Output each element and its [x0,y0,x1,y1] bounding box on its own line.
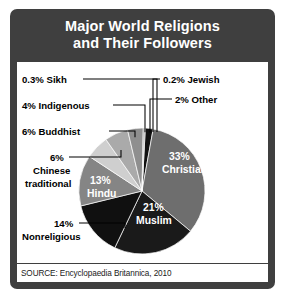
label-christian-pct: 33% [169,151,190,162]
label-nonreligious: Nonreligious [22,231,81,242]
label-chinese-pct: 6% [50,152,64,163]
pie-chart-svg: 0.3% Sikh 4% Indigenous 6% Buddhist 6% C… [17,62,268,263]
label-sikh: 0.3% Sikh [22,74,67,85]
source-strip: SOURCE: Encyclopaedia Britannica, 2010 [17,264,268,282]
label-jewish: 0.2% Jewish [163,74,220,85]
title-line-2: and Their Followers [73,35,212,52]
label-hindu: Hindu [87,188,116,199]
label-muslim-pct: 21% [143,202,164,213]
label-muslim: Muslim [136,215,172,226]
chart-title: Major World Religions and Their Follower… [10,9,275,61]
label-chinese-2: traditional [25,178,71,189]
label-other: 2% Other [175,94,217,105]
infographic-panel: Major World Religions and Their Follower… [10,9,275,289]
label-christian: Christian [162,164,207,175]
label-chinese-1: Chinese [33,165,70,176]
source-text: SOURCE: Encyclopaedia Britannica, 2010 [17,269,171,278]
pie-chart-panel: 0.3% Sikh 4% Indigenous 6% Buddhist 6% C… [17,62,268,263]
title-line-1: Major World Religions [65,18,220,35]
label-hindu-pct: 13% [90,175,111,186]
label-indigenous: 4% Indigenous [22,100,90,111]
label-buddhist: 6% Buddhist [22,126,81,137]
label-nonrel-pct: 14% [54,218,74,229]
